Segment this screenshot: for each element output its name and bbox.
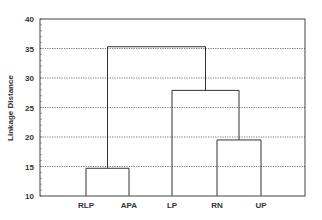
leaf-label-rlp: RLP bbox=[78, 201, 95, 210]
merge-link bbox=[217, 140, 261, 196]
y-axis-ticks: 10152025303540 bbox=[25, 15, 42, 201]
y-tick-label: 35 bbox=[25, 45, 34, 54]
y-tick-label: 20 bbox=[25, 133, 34, 142]
y-tick-label: 15 bbox=[25, 163, 34, 172]
leaf-labels: RLPAPALPRNUP bbox=[78, 201, 267, 210]
leaf-label-apa: APA bbox=[121, 201, 138, 210]
dendrogram-chart: 10152025303540 RLPAPALPRNUP Linkage Dist… bbox=[0, 0, 322, 220]
merge-link bbox=[172, 90, 239, 196]
y-axis-label: Linkage Distance bbox=[6, 75, 15, 141]
y-tick-label: 25 bbox=[25, 104, 34, 113]
y-tick-label: 10 bbox=[25, 192, 34, 201]
merge-link bbox=[86, 168, 129, 196]
dendrogram-links bbox=[86, 47, 261, 196]
leaf-label-lp: LP bbox=[167, 201, 178, 210]
leaf-label-rn: RN bbox=[211, 201, 223, 210]
y-tick-label: 30 bbox=[25, 74, 34, 83]
y-tick-label: 40 bbox=[25, 15, 34, 24]
leaf-label-up: UP bbox=[255, 201, 267, 210]
